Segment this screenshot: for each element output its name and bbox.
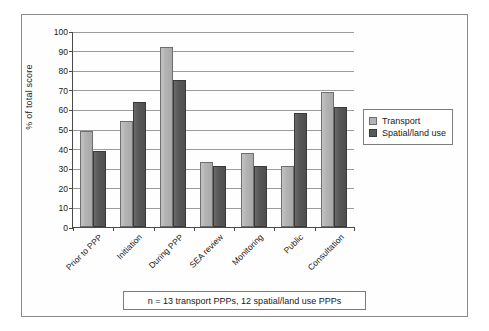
bar (200, 162, 213, 227)
legend-swatch-spatial-icon (369, 129, 377, 137)
x-axis-label: SEA review (187, 232, 225, 270)
bar (120, 121, 133, 227)
x-axis-label: Public (282, 232, 305, 255)
bar (254, 166, 267, 227)
legend-item: Transport (369, 116, 446, 126)
x-tick-mark (234, 227, 235, 231)
legend-label-spatial: Spatial/land use (382, 128, 446, 138)
bar (80, 131, 93, 227)
bar (334, 107, 347, 227)
x-tick-mark (315, 227, 316, 231)
bar-group (80, 32, 106, 227)
x-tick-mark (73, 227, 74, 231)
legend-item: Spatial/land use (369, 128, 446, 138)
legend-label-transport: Transport (382, 116, 420, 126)
y-tick-label: 70 (59, 86, 68, 96)
y-tick-label: 40 (59, 145, 68, 155)
bar-group (241, 32, 267, 227)
x-tick-mark (354, 227, 355, 231)
x-axis-label: Monitoring (230, 232, 265, 267)
x-axis-label: Initiation (115, 232, 144, 261)
caption-box: n = 13 transport PPPs, 12 spatial/land u… (123, 291, 366, 310)
bar (160, 47, 173, 227)
bar (241, 153, 254, 227)
y-tick-label: 10 (59, 203, 68, 213)
x-axis-label: During PPP (146, 232, 184, 270)
figure-container: % of total score 0102030405060708090100 … (0, 0, 489, 331)
y-axis-title: % of total score (24, 32, 34, 162)
bar-group (120, 32, 146, 227)
bar-group (160, 32, 186, 227)
y-tick-label: 60 (59, 105, 68, 115)
x-tick-mark (113, 227, 114, 231)
bar (93, 151, 106, 227)
bar (321, 92, 334, 227)
bar (294, 113, 307, 227)
y-tick-label: 30 (59, 164, 68, 174)
bar (213, 166, 226, 227)
plot-axes: 0102030405060708090100 (72, 32, 354, 228)
y-tick-label: 20 (59, 184, 68, 194)
y-tick-label: 90 (59, 47, 68, 57)
y-tick-label: 80 (59, 66, 68, 76)
y-tick-label: 50 (59, 125, 68, 135)
bar (133, 102, 146, 227)
x-axis-label: Consultation (305, 232, 345, 272)
bar (281, 166, 294, 227)
bar (173, 80, 186, 227)
legend-swatch-transport-icon (369, 117, 377, 125)
x-tick-mark (154, 227, 155, 231)
x-axis-labels: Prior to PPPInitiationDuring PPPSEA revi… (72, 232, 354, 290)
bar-group (200, 32, 226, 227)
y-tick-label: 100 (54, 27, 68, 37)
x-tick-mark (274, 227, 275, 231)
x-tick-mark (194, 227, 195, 231)
chart-legend: Transport Spatial/land use (363, 109, 453, 145)
bar-group (281, 32, 307, 227)
y-tick-label: 0 (63, 223, 68, 233)
bar-groups (73, 32, 354, 227)
plot-area: 0102030405060708090100 (72, 32, 354, 228)
caption-text: n = 13 transport PPPs, 12 spatial/land u… (148, 296, 341, 306)
bar-group (321, 32, 347, 227)
